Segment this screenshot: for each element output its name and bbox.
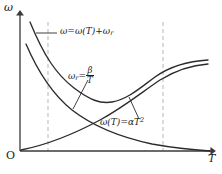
sum-curve — [30, 22, 208, 102]
sum-label-plus: + — [95, 26, 103, 36]
lattice-label-equals: = — [120, 117, 128, 127]
fraction-numerator: β — [86, 66, 94, 75]
residual-label-fraction: βT — [86, 66, 94, 85]
x-axis-label: T — [208, 153, 215, 164]
lattice-label: ω(T)=αT2 — [100, 117, 144, 127]
chart-figure: ω O T ω=ω(T)+ωr ωr=βT ω(T)=αT2 — [0, 0, 222, 174]
sum-label-equals: = — [67, 26, 75, 36]
lattice-label-arg: (T) — [107, 117, 120, 127]
sum-label: ω=ω(T)+ωr — [60, 27, 113, 37]
sum-label-subscript: r — [110, 29, 113, 37]
residual-label: ωr=βT — [68, 66, 94, 85]
lattice-label-exponent: 2 — [140, 116, 144, 124]
residual-label-equals: = — [78, 71, 86, 81]
lattice-curve — [21, 64, 208, 150]
origin-label: O — [6, 150, 15, 161]
residual-curve — [26, 44, 210, 151]
y-axis-label: ω — [4, 2, 13, 13]
lattice-label-leader — [129, 97, 139, 119]
sum-label-arg: (T) — [82, 26, 95, 36]
fraction-denominator: T — [86, 75, 94, 85]
